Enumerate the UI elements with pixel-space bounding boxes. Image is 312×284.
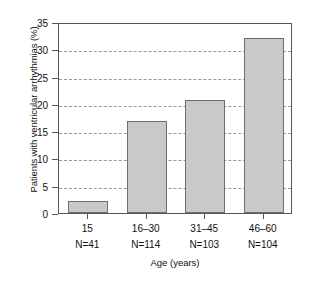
bar (244, 38, 284, 213)
x-tick-mark (263, 214, 264, 219)
y-tick-label: 35 (24, 18, 48, 29)
y-tick-label: 30 (24, 45, 48, 56)
y-tick-label: 0 (24, 209, 48, 220)
x-tick-mark (204, 214, 205, 219)
bar (185, 100, 225, 214)
chart-figure: Patients with ventricular arrhythmias (%… (0, 0, 312, 284)
x-tick-mark (146, 214, 147, 219)
x-tick-group: 46–60N=104 (228, 221, 298, 253)
y-tick-label: 10 (24, 154, 48, 165)
y-tick-label: 25 (24, 72, 48, 83)
y-tick-label: 20 (24, 99, 48, 110)
x-tick-label: 46–60 (228, 221, 298, 236)
x-tick-mark (87, 214, 88, 219)
y-tick-label: 5 (24, 181, 48, 192)
bar (127, 121, 167, 213)
plot-area (58, 23, 292, 214)
bar (68, 201, 108, 213)
y-tick-mark (52, 214, 58, 215)
x-tick-group-size: N=104 (228, 236, 298, 253)
y-tick-label: 15 (24, 127, 48, 138)
x-axis-title: Age (years) (58, 257, 292, 268)
